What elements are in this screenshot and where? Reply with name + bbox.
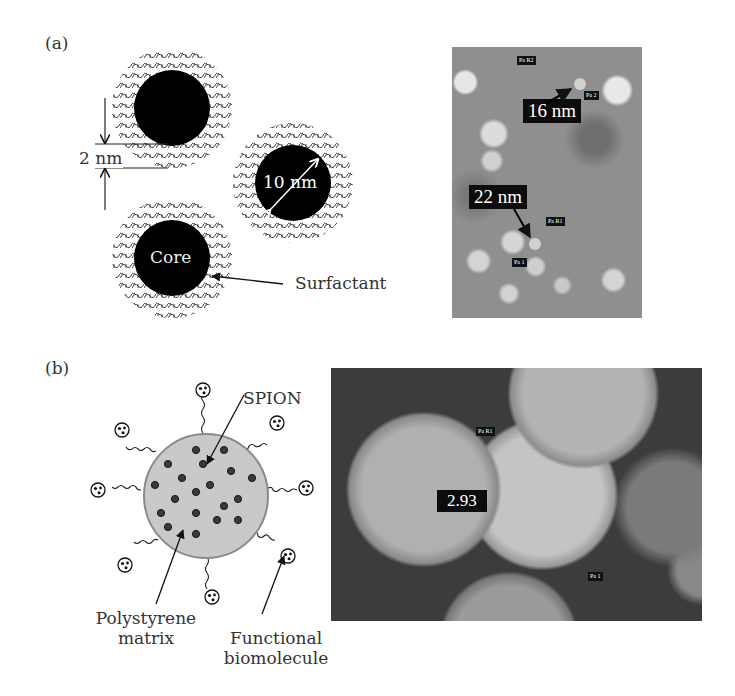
biomolecule-label-line1: Functional bbox=[216, 628, 336, 648]
matrix-label: Polystyrene matrix bbox=[86, 608, 206, 648]
tag-pa-r1-b: Pa R1 bbox=[476, 427, 495, 436]
matrix-label-line2: matrix bbox=[86, 628, 206, 648]
biomolecule-pointer bbox=[262, 556, 284, 614]
tag-pa-1-b: Pa 1 bbox=[588, 572, 603, 581]
biomolecule-label: Functional biomolecule bbox=[216, 628, 336, 668]
micrograph-b: Pa R1 2.93 Pa 1 bbox=[331, 368, 702, 621]
spion-label: SPION bbox=[243, 388, 302, 408]
matrix-label-line1: Polystyrene bbox=[86, 608, 206, 628]
biomolecule-label-line2: biomolecule bbox=[216, 648, 336, 668]
polystyrene-matrix bbox=[144, 434, 268, 558]
measure-2-93: 2.93 bbox=[437, 490, 487, 512]
